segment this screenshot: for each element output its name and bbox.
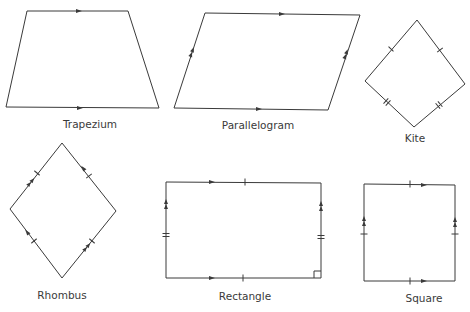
kite-shape <box>365 20 465 127</box>
rectangle-label: Rectangle <box>219 290 271 302</box>
parallel-arrow-mark <box>80 164 87 171</box>
rhombus-label: Rhombus <box>37 289 86 301</box>
kite-label: Kite <box>405 132 425 144</box>
parallel-arrow-mark <box>421 183 427 187</box>
parallel-arrow-mark <box>421 279 427 283</box>
parallel-double-arrow-mark <box>164 199 168 209</box>
parallelogram-label: Parallelogram <box>222 119 294 131</box>
parallel-double-arrow-mark <box>453 217 457 227</box>
parallel-double-arrow-mark <box>362 216 366 226</box>
parallel-arrow-mark <box>279 12 285 16</box>
trapezium-shape <box>6 9 159 110</box>
parallel-arrow-mark <box>256 107 262 111</box>
parallelogram-shape <box>174 12 360 111</box>
square-label: Square <box>406 292 443 304</box>
parallel-arrow-mark <box>76 9 82 13</box>
quadrilaterals-figure: Trapezium Parallelogram Kite Rhombus <box>0 0 470 312</box>
right-angle-mark <box>314 271 321 278</box>
square-shape <box>361 181 459 285</box>
trapezium-label: Trapezium <box>62 118 117 130</box>
parallel-arrow-mark <box>77 106 83 110</box>
parallel-double-arrow-mark <box>319 201 323 211</box>
rectangle-shape <box>163 179 325 282</box>
parallel-arrow-mark <box>209 180 215 184</box>
rhombus-shape <box>10 143 116 278</box>
parallel-double-arrow-mark <box>188 47 195 58</box>
parallel-arrow-mark <box>209 276 215 280</box>
